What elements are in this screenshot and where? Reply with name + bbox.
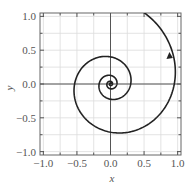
y-tick-label: 1.0: [22, 10, 36, 22]
x-tick-label: 1.0: [171, 157, 185, 169]
x-tick-label: 0.0: [104, 157, 118, 169]
y-tick-labels: −1.0−0.50.00.51.0: [16, 10, 36, 157]
x-tick-label: 0.5: [137, 157, 151, 169]
x-axis-label: x: [109, 172, 115, 184]
x-tick-label: −0.5: [67, 157, 87, 169]
spiral-curve: [74, 2, 175, 133]
y-tick-label: −0.5: [16, 112, 36, 124]
x-tick-label: −1.0: [33, 157, 53, 169]
y-tick-label: 0.0: [22, 78, 36, 90]
spiral-chart: −1.0−0.50.00.51.0 −1.0−0.50.00.51.0 x y: [0, 0, 194, 186]
y-tick-label: −1.0: [16, 146, 36, 158]
x-tick-labels: −1.0−0.50.00.51.0: [33, 157, 185, 169]
y-tick-label: 0.5: [22, 44, 36, 56]
y-axis-label: y: [3, 85, 15, 91]
